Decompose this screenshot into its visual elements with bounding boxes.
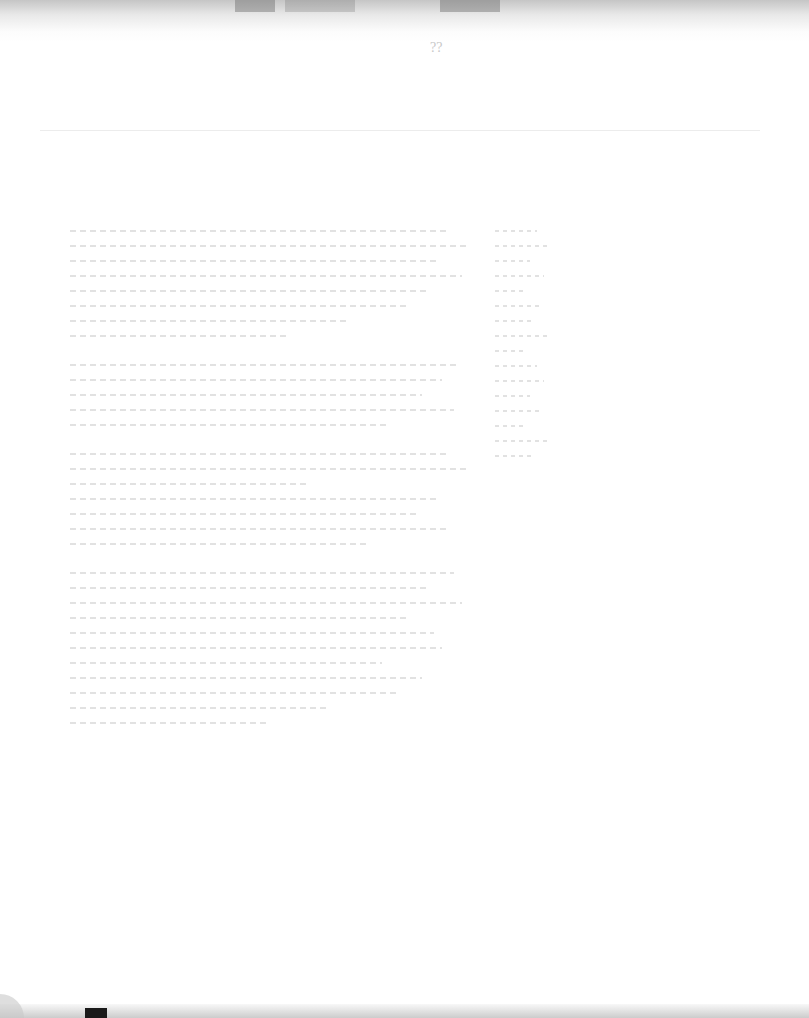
entry-line (495, 290, 523, 292)
text-line (70, 617, 406, 619)
text-line (70, 424, 390, 426)
entry-line (495, 395, 530, 397)
scan-artifact (85, 1008, 107, 1018)
page-curl (0, 994, 24, 1018)
text-line (70, 290, 430, 292)
entry-line (495, 260, 530, 262)
entry-line (495, 335, 548, 337)
page-header-mark: ?? (430, 40, 442, 56)
entry-line (495, 440, 548, 442)
right-column-entries (495, 230, 565, 470)
entry-line (495, 380, 544, 382)
entry-line (495, 275, 544, 277)
text-line (70, 468, 466, 470)
text-line (70, 647, 442, 649)
entry-line (495, 350, 527, 352)
text-line (70, 513, 418, 515)
text-line (70, 602, 462, 604)
text-line (70, 483, 310, 485)
text-line (70, 677, 422, 679)
scan-bottom-edge (0, 1004, 809, 1018)
text-line (70, 662, 382, 664)
entry-line (495, 455, 534, 457)
scan-artifact (440, 0, 500, 12)
entry-line (495, 245, 551, 247)
text-line (70, 230, 450, 232)
text-line (70, 260, 438, 262)
entry-line (495, 305, 541, 307)
text-line (70, 364, 458, 366)
text-line (70, 245, 470, 247)
text-line (70, 632, 434, 634)
body-text-block (70, 230, 470, 737)
scan-artifact (285, 0, 355, 12)
text-line (70, 379, 442, 381)
text-line (70, 453, 446, 455)
scan-artifact (235, 0, 275, 12)
text-line (70, 275, 462, 277)
entry-line (495, 230, 537, 232)
text-line (70, 572, 454, 574)
scan-header-smudge (0, 0, 809, 42)
text-line (70, 722, 270, 724)
entry-line (495, 320, 534, 322)
text-line (70, 692, 398, 694)
entry-line (495, 425, 523, 427)
text-line (70, 498, 438, 500)
text-line (70, 394, 422, 396)
text-line (70, 305, 410, 307)
text-line (70, 587, 430, 589)
text-line (70, 543, 370, 545)
text-line (70, 320, 350, 322)
text-line (70, 409, 454, 411)
text-line (70, 528, 450, 530)
text-line (70, 335, 290, 337)
faint-rule (40, 130, 760, 131)
entry-line (495, 410, 541, 412)
text-line (70, 707, 330, 709)
entry-line (495, 365, 537, 367)
